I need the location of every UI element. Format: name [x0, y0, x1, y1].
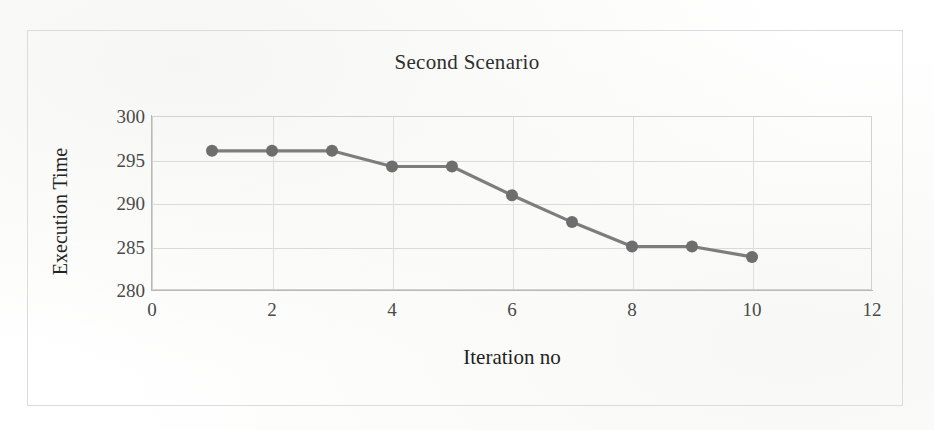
gridline-vertical: [273, 117, 274, 289]
gridline-vertical: [753, 117, 754, 289]
gridline-vertical: [513, 117, 514, 289]
x-axis-title: Iteration no: [152, 345, 872, 370]
y-tick-label: 290: [99, 194, 145, 213]
plot-area: [152, 116, 872, 290]
y-tick-label: 280: [99, 281, 145, 300]
y-tick-label: 295: [99, 151, 145, 170]
gridline-vertical: [393, 117, 394, 289]
gridline-vertical: [633, 117, 634, 289]
x-tick-label: 6: [482, 300, 542, 319]
x-axis-line: [151, 290, 873, 291]
y-tick-label: 285: [99, 238, 145, 257]
chart-page: Second Scenario Execution Time Iteration…: [0, 0, 934, 430]
gridline-horizontal: [153, 204, 871, 205]
x-tick-label: 2: [242, 300, 302, 319]
x-tick-label: 12: [842, 300, 902, 319]
x-tick-label: 8: [602, 300, 662, 319]
x-tick-label: 0: [122, 300, 182, 319]
gridline-horizontal: [153, 248, 871, 249]
y-axis-title: Execution Time: [49, 117, 72, 307]
gridline-horizontal: [153, 161, 871, 162]
y-tick-label: 300: [99, 107, 145, 126]
x-tick-label: 10: [722, 300, 782, 319]
y-axis-tick-labels: 300295290285280: [95, 0, 145, 430]
x-tick-label: 4: [362, 300, 422, 319]
y-axis-line: [151, 115, 152, 291]
